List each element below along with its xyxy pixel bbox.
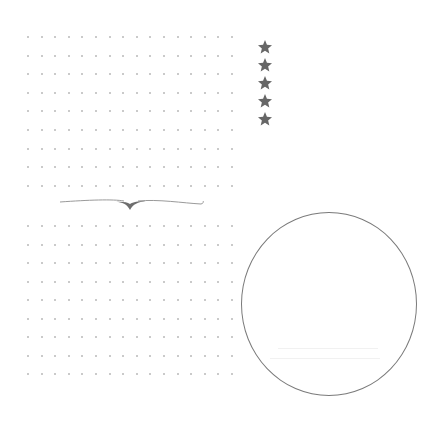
star-icon	[257, 93, 273, 109]
grid-dot	[81, 110, 83, 112]
grid-dot	[217, 244, 219, 246]
ornamental-divider-icon	[58, 194, 204, 214]
grid-dot	[190, 166, 192, 168]
grid-dot	[122, 148, 124, 150]
grid-dot	[122, 318, 124, 320]
grid-dot	[41, 166, 43, 168]
grid-dot	[95, 148, 97, 150]
grid-dot	[231, 373, 233, 375]
grid-dot	[81, 336, 83, 338]
grid-dot	[68, 185, 70, 187]
grid-dot	[231, 73, 233, 75]
grid-dot	[109, 166, 111, 168]
grid-dot	[95, 262, 97, 264]
grid-dot	[27, 299, 29, 301]
grid-dot	[136, 55, 138, 57]
grid-dot	[177, 281, 179, 283]
grid-dot	[109, 148, 111, 150]
grid-dot	[122, 262, 124, 264]
grid-dot	[95, 110, 97, 112]
grid-dot	[95, 129, 97, 131]
grid-dot	[136, 299, 138, 301]
grid-dot	[204, 355, 206, 357]
grid-dot	[190, 281, 192, 283]
grid-dot	[149, 355, 151, 357]
grid-dot	[81, 318, 83, 320]
grid-dot	[95, 225, 97, 227]
grid-dot	[217, 36, 219, 38]
grid-dot	[231, 262, 233, 264]
grid-dot	[217, 225, 219, 227]
grid-dot	[109, 185, 111, 187]
grid-dot	[190, 355, 192, 357]
grid-dot	[177, 244, 179, 246]
grid-dot	[136, 110, 138, 112]
grid-dot	[95, 281, 97, 283]
grid-dot	[149, 281, 151, 283]
grid-dot	[54, 281, 56, 283]
star-icon	[257, 39, 273, 55]
grid-dot	[163, 281, 165, 283]
grid-dot	[149, 336, 151, 338]
grid-dot	[109, 299, 111, 301]
grid-dot	[27, 355, 29, 357]
grid-dot	[54, 73, 56, 75]
grid-dot	[68, 225, 70, 227]
grid-dot	[231, 92, 233, 94]
grid-dot	[54, 244, 56, 246]
grid-dot	[27, 318, 29, 320]
grid-dot	[122, 166, 124, 168]
grid-dot	[136, 336, 138, 338]
grid-dot	[163, 373, 165, 375]
grid-dot	[68, 110, 70, 112]
grid-dot	[204, 185, 206, 187]
grid-dot	[109, 355, 111, 357]
grid-dot	[68, 36, 70, 38]
grid-dot	[95, 336, 97, 338]
grid-dot	[217, 55, 219, 57]
grid-dot	[109, 281, 111, 283]
grid-dot	[149, 73, 151, 75]
grid-dot	[217, 281, 219, 283]
grid-dot	[149, 225, 151, 227]
grid-dot	[163, 166, 165, 168]
grid-dot	[217, 318, 219, 320]
grid-dot	[231, 244, 233, 246]
grid-dot	[163, 318, 165, 320]
grid-dot	[136, 244, 138, 246]
grid-dot	[217, 73, 219, 75]
grid-dot	[190, 185, 192, 187]
grid-dot	[54, 262, 56, 264]
grid-dot	[204, 318, 206, 320]
grid-dot	[231, 336, 233, 338]
grid-dot	[41, 225, 43, 227]
grid-dot	[204, 166, 206, 168]
grid-dot	[109, 129, 111, 131]
grid-dot	[27, 281, 29, 283]
grid-dot	[81, 73, 83, 75]
grid-dot	[41, 262, 43, 264]
grid-dot	[81, 225, 83, 227]
grid-dot	[68, 336, 70, 338]
grid-dot	[68, 318, 70, 320]
grid-dot	[136, 148, 138, 150]
grid-dot	[41, 110, 43, 112]
grid-dot	[149, 299, 151, 301]
grid-dot	[41, 244, 43, 246]
grid-dot	[95, 55, 97, 57]
grid-dot	[81, 244, 83, 246]
grid-dot	[163, 299, 165, 301]
grid-dot	[122, 185, 124, 187]
grid-dot	[190, 225, 192, 227]
grid-dot	[54, 355, 56, 357]
grid-dot	[204, 129, 206, 131]
grid-dot	[81, 355, 83, 357]
grid-dot	[177, 225, 179, 227]
grid-dot	[204, 110, 206, 112]
grid-dot	[177, 336, 179, 338]
grid-dot	[231, 355, 233, 357]
grid-dot	[204, 336, 206, 338]
grid-dot	[122, 110, 124, 112]
grid-dot	[204, 225, 206, 227]
grid-dot	[54, 55, 56, 57]
